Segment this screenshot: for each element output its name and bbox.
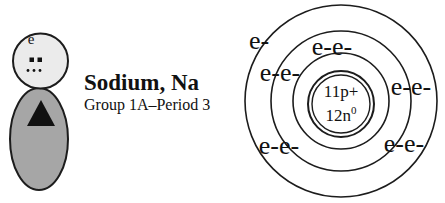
electron-dot-small (39, 69, 42, 72)
element-title: Sodium, Na (84, 70, 199, 95)
element-character-figure (10, 34, 68, 191)
diagram-shapes-layer (0, 0, 445, 203)
electron-dot (38, 58, 43, 63)
electron-label-shell2-lower-right: e-e- (384, 131, 424, 157)
electron-label-shell2-right: e-e- (391, 74, 431, 100)
electron-label-shell2-lower-left: e-e- (259, 133, 299, 159)
electron-label-shell3-single: e- (249, 28, 269, 54)
nucleus-neutrons-label: 12n0 (324, 101, 358, 125)
electron-label-shell2-upper-left: e-e- (260, 60, 300, 86)
sodium-bohr-diagram: Sodium, Na Group 1A–Period 3 e e- e-e- e… (0, 0, 445, 203)
nucleus-protons-label: 11p+ (324, 83, 358, 101)
electron-dot-small (33, 69, 36, 72)
neutron-charge-superscript: 0 (351, 104, 357, 116)
electron-label-shell1-pair: e-e- (312, 34, 352, 60)
electron-dot (30, 58, 35, 63)
figure-electron-label: e (28, 31, 35, 48)
electron-dot-small (27, 69, 30, 72)
nucleus-label: 11p+ 12n0 (324, 83, 358, 125)
element-group-period: Group 1A–Period 3 (84, 96, 210, 114)
figure-body-ellipse (10, 88, 68, 190)
